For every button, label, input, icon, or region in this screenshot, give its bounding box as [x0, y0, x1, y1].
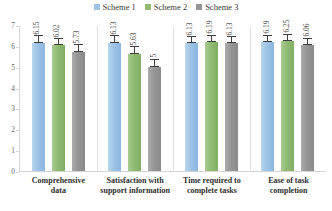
error-bar-cap [150, 59, 159, 60]
y-axis-tick-mark [16, 26, 19, 27]
error-bar-cap [150, 66, 159, 67]
bar[interactable] [32, 43, 45, 171]
x-axis-category-label: Time required tocomplete tasks [174, 176, 251, 196]
bar-group: 6.136.196.13 [173, 26, 250, 171]
legend-swatch-scheme-3 [196, 4, 202, 10]
y-axis-tick-mark [16, 68, 19, 69]
y-axis-tick-mark [16, 47, 19, 48]
y-axis-tick-mark [16, 109, 19, 110]
y-axis-tick-label: 0 [2, 168, 15, 176]
bar-slot: 6.06 [301, 26, 314, 171]
bar-value-label: 6.19 [263, 21, 271, 34]
bar-group: 6.196.256.06 [250, 26, 327, 171]
error-bar-cap [187, 36, 196, 37]
bar-value-label: 6.15 [33, 21, 41, 34]
error-bar-cap [130, 53, 139, 54]
bar-slot: 6.19 [261, 26, 274, 171]
error-bar-cap [34, 42, 43, 43]
legend-label-scheme-2: Scheme 2 [154, 3, 187, 12]
grouped-bar-chart: Scheme 1 Scheme 2 Scheme 3 76543210 6.15… [0, 0, 332, 211]
error-bar-cap [263, 41, 272, 42]
plot-area: 76543210 6.156.025.736.135.6356.136.196.… [19, 26, 326, 172]
category-label-line: Time required to [176, 176, 249, 186]
bar-value-label: 5.63 [130, 32, 138, 45]
bar-slot: 5 [148, 26, 161, 171]
y-axis-tick-label: 5 [2, 64, 15, 72]
error-bar-cap [110, 35, 119, 36]
bar-value-label: 5.73 [73, 30, 81, 43]
bar-slot: 6.13 [225, 26, 238, 171]
category-label-line: Ease of task [252, 176, 325, 186]
category-label-line: Satisfaction with [99, 176, 172, 186]
error-bar-cap [207, 35, 216, 36]
error-bar-cap [263, 35, 272, 36]
bar[interactable] [261, 42, 274, 171]
error-bar-cap [283, 40, 292, 41]
error-bar-cap [207, 41, 216, 42]
legend-swatch-scheme-1 [94, 4, 100, 10]
legend-label-scheme-1: Scheme 1 [103, 3, 136, 12]
bar-slot: 6.19 [205, 26, 218, 171]
bar[interactable] [108, 43, 121, 171]
error-bar-cap [187, 42, 196, 43]
chart-legend: Scheme 1 Scheme 2 Scheme 3 [0, 3, 332, 12]
category-label-line: data [22, 186, 95, 196]
y-axis-tick-mark [16, 172, 19, 173]
y-axis-tick-label: 2 [2, 126, 15, 134]
bar-value-label: 6.19 [206, 21, 214, 34]
bar[interactable] [205, 42, 218, 171]
bar-slot: 6.25 [281, 26, 294, 171]
bar-value-label: 6.25 [283, 20, 291, 33]
legend-item-scheme-1: Scheme 1 [94, 3, 136, 12]
y-axis-tick-label: 3 [2, 105, 15, 113]
error-bar-cap [74, 44, 83, 45]
bar[interactable] [148, 67, 161, 171]
error-bar-cap [54, 38, 63, 39]
bar[interactable] [128, 54, 141, 171]
error-bar-cap [227, 36, 236, 37]
error-bar-cap [283, 34, 292, 35]
error-bar-cap [74, 51, 83, 52]
bar-slot: 6.02 [52, 26, 65, 171]
category-label-line: complete tasks [176, 186, 249, 196]
y-axis-tick-label: 4 [2, 85, 15, 93]
y-axis-tick-label: 7 [2, 22, 15, 30]
category-label-line: support information [99, 186, 172, 196]
bar[interactable] [301, 45, 314, 171]
error-bar-cap [34, 35, 43, 36]
bar-value-label: 6.13 [186, 22, 194, 35]
x-axis-category-labels: ComprehensivedataSatisfaction withsuppor… [20, 176, 327, 196]
bar-value-label: 6.13 [110, 21, 118, 34]
bar-value-label: 6.06 [303, 24, 311, 37]
x-axis-line [19, 171, 326, 172]
bar[interactable] [52, 45, 65, 171]
category-label-line: Comprehensive [22, 176, 95, 186]
category-label-line: completion [252, 186, 325, 196]
bar[interactable] [225, 43, 238, 171]
y-axis-tick-label: 1 [2, 147, 15, 155]
error-bar-cap [303, 38, 312, 39]
bar-slot: 5.73 [72, 26, 85, 171]
bar-groups: 6.156.025.736.135.6356.136.196.136.196.2… [20, 26, 326, 171]
bar-value-label: 6.13 [226, 22, 234, 35]
bar[interactable] [72, 52, 85, 172]
bar-group: 6.135.635 [97, 26, 174, 171]
error-bar-cap [54, 44, 63, 45]
bar-slot: 6.13 [185, 26, 198, 171]
bar-slot: 6.13 [108, 26, 121, 171]
error-bar-cap [303, 44, 312, 45]
x-axis-category-label: Satisfaction withsupport information [97, 176, 174, 196]
error-bar-cap [130, 46, 139, 47]
error-bar-cap [227, 42, 236, 43]
x-axis-category-label: Comprehensivedata [20, 176, 97, 196]
bar[interactable] [281, 41, 294, 171]
bar-slot: 6.15 [32, 26, 45, 171]
bar-slot: 5.63 [128, 26, 141, 171]
y-axis-tick-mark [16, 151, 19, 152]
bar[interactable] [185, 43, 198, 171]
legend-item-scheme-3: Scheme 3 [196, 3, 238, 12]
y-axis-tick-mark [16, 89, 19, 90]
bar-value-label: 5 [150, 54, 158, 58]
legend-label-scheme-3: Scheme 3 [205, 3, 238, 12]
legend-item-scheme-2: Scheme 2 [145, 3, 187, 12]
